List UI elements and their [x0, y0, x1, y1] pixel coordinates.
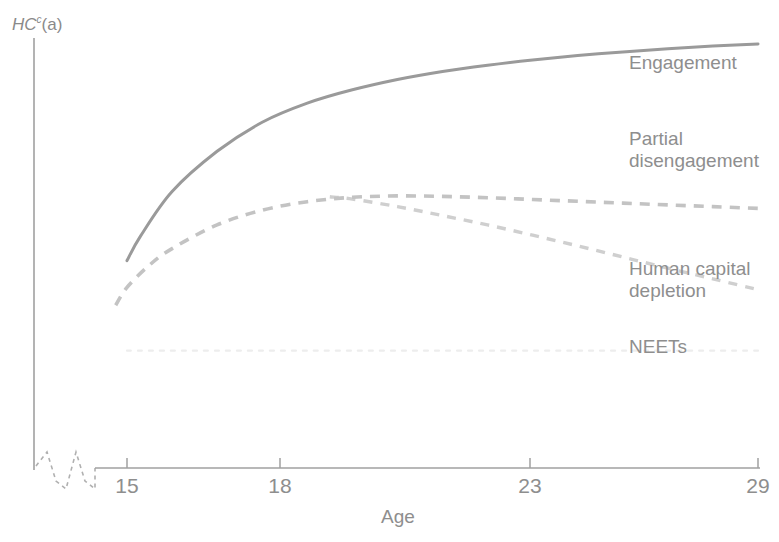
- x-tick-label-15: 15: [107, 474, 147, 498]
- series-label-partial-disengagement: Partial disengagement: [629, 128, 759, 172]
- x-axis-label: Age: [381, 506, 415, 528]
- y-axis-label-main: HC: [12, 15, 37, 34]
- series-label-human-capital-depletion: Human capital depletion: [629, 258, 750, 302]
- series-label-partial-line2: disengagement: [629, 150, 759, 172]
- x-axis-break-zigzag: [36, 452, 95, 489]
- y-axis-label: HCc(a): [12, 14, 62, 35]
- series-label-partial-line1: Partial: [629, 128, 759, 150]
- series-label-depletion-line1: Human capital: [629, 258, 750, 280]
- series-label-neets: NEETs: [629, 336, 687, 358]
- x-tick-label-18: 18: [260, 474, 300, 498]
- series-label-neets-text: NEETs: [629, 336, 687, 358]
- x-tick-label-29: 29: [738, 474, 778, 498]
- chart-figure: HCc(a) Age 15 18 23 29 Engagement Partia…: [0, 0, 779, 542]
- series-label-engagement-text: Engagement: [629, 52, 737, 74]
- series-label-engagement: Engagement: [629, 52, 737, 74]
- x-tick-label-23: 23: [510, 474, 550, 498]
- y-axis-label-argument: (a): [42, 15, 63, 34]
- series-label-depletion-line2: depletion: [629, 280, 750, 302]
